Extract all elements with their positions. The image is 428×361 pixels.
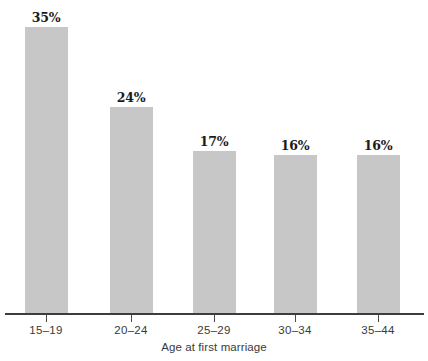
bar	[25, 27, 68, 313]
x-axis-tick	[378, 315, 379, 322]
x-axis-tick-label: 25–29	[174, 324, 254, 336]
bar	[274, 155, 317, 313]
bar	[193, 151, 236, 313]
bar-value-label: 16%	[265, 138, 325, 153]
x-axis-tick-label: 30–34	[255, 324, 335, 336]
bar-value-label: 17%	[184, 134, 244, 149]
bar	[357, 155, 400, 313]
bar-chart: 35%24%17%16%16% 15–1920–2425–2930–3435–4…	[0, 0, 428, 361]
x-axis-tick	[295, 315, 296, 322]
x-axis-tick	[214, 315, 215, 322]
x-axis-tick	[131, 315, 132, 322]
bar-value-label: 16%	[348, 138, 408, 153]
x-axis-tick-label: 15–19	[6, 324, 86, 336]
bar-value-label: 24%	[101, 90, 161, 105]
x-axis-tick	[46, 315, 47, 322]
x-axis-tick-label: 20–24	[91, 324, 171, 336]
bar-value-label: 35%	[16, 10, 76, 25]
x-axis-tick-label: 35–44	[338, 324, 418, 336]
bar	[110, 107, 153, 313]
x-axis-title: Age at first marriage	[0, 341, 428, 353]
